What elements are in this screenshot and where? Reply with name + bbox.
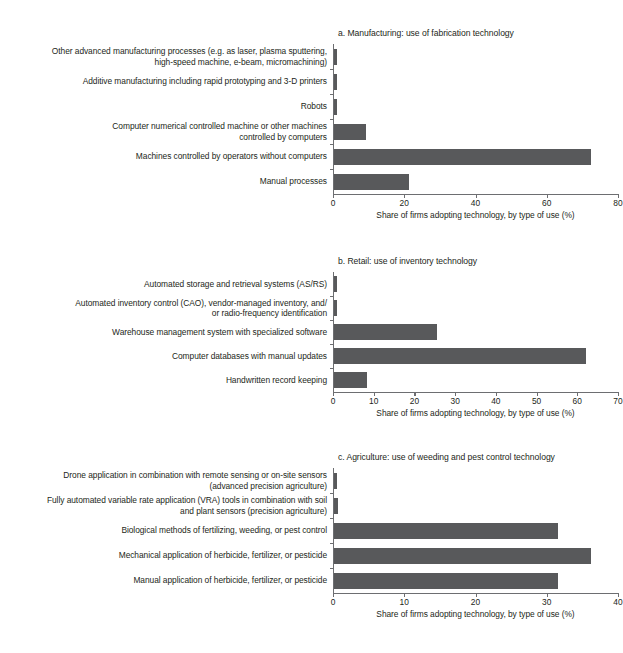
category-label-text: Machines controlled by operators without… <box>136 151 327 162</box>
y-axis-tick <box>330 69 334 70</box>
x-axis-title: Share of firms adopting technology, by t… <box>333 609 618 619</box>
category-label: Other advanced manufacturing processes (… <box>0 44 327 69</box>
bar <box>334 573 558 589</box>
bar-slot <box>334 543 618 568</box>
y-axis-ticks <box>334 44 338 194</box>
category-label: Manual application of herbicide, fertili… <box>0 568 327 593</box>
category-label-text: Additive manufacturing including rapid p… <box>83 76 327 87</box>
y-axis-tick <box>330 518 334 519</box>
plot-area: Drone application in combination with re… <box>0 468 618 593</box>
bar-slot <box>334 144 618 169</box>
chart-title: a. Manufacturing: use of fabrication tec… <box>0 28 618 38</box>
bar-slot <box>334 493 618 518</box>
y-axis-tick <box>330 144 334 145</box>
y-axis-tick <box>330 119 334 120</box>
x-axis-tick-labels: 020406080 <box>333 195 618 208</box>
x-axis-tick-labels: 010203040506070 <box>333 393 618 406</box>
x-axis-tick-label: 0 <box>331 198 336 208</box>
y-axis-tick <box>330 296 334 297</box>
category-label-column: Drone application in combination with re… <box>0 468 333 593</box>
category-label-text: Drone application in combination with re… <box>63 470 327 491</box>
x-axis-tick-label: 40 <box>471 198 480 208</box>
bar-series <box>334 272 618 392</box>
x-axis-tick-label: 80 <box>613 198 622 208</box>
x-axis-tick-label: 10 <box>369 396 378 406</box>
bar-slot <box>334 272 618 296</box>
plot-area: Automated storage and retrieval systems … <box>0 272 618 392</box>
y-axis-ticks <box>334 272 338 392</box>
chart-panel-c: c. Agriculture: use of weeding and pest … <box>0 452 618 619</box>
bar-series <box>334 468 618 593</box>
category-label-text: Computer databases with manual updates <box>172 351 327 362</box>
category-label: Computer numerical controlled machine or… <box>0 119 327 144</box>
bar <box>334 174 409 190</box>
bar <box>334 324 437 340</box>
category-label-text: Other advanced manufacturing processes (… <box>52 46 327 67</box>
category-label: Automated inventory control (CAO), vendo… <box>0 296 327 320</box>
category-label: Drone application in combination with re… <box>0 468 327 493</box>
category-label-text: Mechanical application of herbicide, fer… <box>119 550 327 561</box>
bar <box>334 348 586 364</box>
bar-slot <box>334 518 618 543</box>
plot-area: Other advanced manufacturing processes (… <box>0 44 618 194</box>
x-axis-tick-label: 50 <box>532 396 541 406</box>
bar-slot <box>334 368 618 392</box>
bars-region <box>333 468 618 593</box>
chart-title: b. Retail: use of inventory technology <box>0 256 618 266</box>
category-label-text: Biological methods of fertilizing, weedi… <box>121 525 327 536</box>
category-label: Robots <box>0 94 327 119</box>
x-axis-tick-label: 40 <box>491 396 500 406</box>
category-label-text: Manual application of herbicide, fertili… <box>133 575 327 586</box>
bar-slot <box>334 568 618 593</box>
category-label: Additive manufacturing including rapid p… <box>0 69 327 94</box>
category-label: Mechanical application of herbicide, fer… <box>0 543 327 568</box>
bar <box>334 149 591 165</box>
x-axis-tick-label: 20 <box>410 396 419 406</box>
bars-region <box>333 44 618 194</box>
category-label-text: Computer numerical controlled machine or… <box>112 121 327 142</box>
y-axis-tick <box>330 344 334 345</box>
category-label: Fully automated variable rate applicatio… <box>0 493 327 518</box>
category-label: Machines controlled by operators without… <box>0 144 327 169</box>
x-axis-tick-label: 30 <box>542 597 551 607</box>
x-axis-tick-label: 60 <box>573 396 582 406</box>
chart-panel-b: b. Retail: use of inventory technologyAu… <box>0 256 618 418</box>
category-label: Warehouse management system with special… <box>0 320 327 344</box>
y-axis-tick <box>330 320 334 321</box>
bar <box>334 548 591 564</box>
category-label-text: Automated storage and retrieval systems … <box>144 279 327 290</box>
x-axis-tick-label: 60 <box>542 198 551 208</box>
bars-region <box>333 272 618 392</box>
x-axis-tick-label: 20 <box>400 198 409 208</box>
x-axis-tick-label: 10 <box>400 597 409 607</box>
bar-slot <box>334 320 618 344</box>
bar-slot <box>334 169 618 194</box>
category-label-text: Manual processes <box>260 176 327 187</box>
x-axis-tick-label: 30 <box>450 396 459 406</box>
category-label-text: Warehouse management system with special… <box>112 327 327 338</box>
x-axis-title: Share of firms adopting technology, by t… <box>333 408 618 418</box>
x-axis-tick-label: 20 <box>471 597 480 607</box>
category-label: Handwritten record keeping <box>0 368 327 392</box>
y-axis-tick <box>330 94 334 95</box>
category-label: Automated storage and retrieval systems … <box>0 272 327 296</box>
category-label-text: Automated inventory control (CAO), vendo… <box>75 298 327 319</box>
x-axis-title: Share of firms adopting technology, by t… <box>333 210 618 220</box>
x-axis-tick-label: 0 <box>331 396 336 406</box>
bar-slot <box>334 468 618 493</box>
bar-slot <box>334 44 618 69</box>
chart-title: c. Agriculture: use of weeding and pest … <box>0 452 618 462</box>
category-label-text: Fully automated variable rate applicatio… <box>47 495 327 516</box>
y-axis-ticks <box>334 468 338 593</box>
bar <box>334 523 558 539</box>
bar-slot <box>334 69 618 94</box>
y-axis-tick <box>330 568 334 569</box>
bar-slot <box>334 296 618 320</box>
chart-panel-a: a. Manufacturing: use of fabrication tec… <box>0 28 618 220</box>
x-axis-tick-label: 70 <box>613 396 622 406</box>
y-axis-tick <box>330 169 334 170</box>
bar <box>334 372 367 388</box>
x-axis-tick-labels: 010203040 <box>333 594 618 607</box>
bar-slot <box>334 119 618 144</box>
x-axis-tick-label: 40 <box>613 597 622 607</box>
